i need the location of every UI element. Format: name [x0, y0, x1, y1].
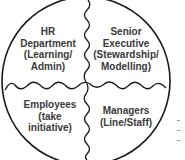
hr-line-4: Admin): [18, 61, 78, 73]
horizontal-wave-divider: [5, 82, 166, 90]
employees-line-2: (take: [20, 111, 80, 123]
quadrant-employees: Employees (take initiative): [20, 99, 80, 134]
edge-mark: [177, 120, 180, 121]
edge-mark: [177, 130, 180, 131]
employees-line-3: initiative): [20, 122, 80, 134]
edge-mark: [177, 140, 180, 141]
quadrant-hr-department: HR Department (Learning/ Admin): [18, 26, 78, 72]
managers-line-2: (Line/Staff): [94, 117, 158, 129]
hr-line-1: HR: [18, 26, 78, 38]
exec-line-4: Modelling): [92, 61, 160, 73]
employees-line-1: Employees: [20, 99, 80, 111]
hr-line-3: (Learning/: [18, 49, 78, 61]
exec-line-2: Executive: [92, 38, 160, 50]
exec-line-1: Senior: [92, 26, 160, 38]
exec-line-3: (Stewardship/: [92, 49, 160, 61]
managers-line-1: Managers: [94, 105, 158, 117]
hr-line-2: Department: [18, 38, 78, 50]
vertical-wave-divider: [84, 0, 90, 160]
quadrant-senior-executive: Senior Executive (Stewardship/ Modelling…: [92, 26, 160, 72]
diagram-canvas: [0, 0, 185, 160]
quadrant-managers: Managers (Line/Staff): [94, 105, 158, 128]
